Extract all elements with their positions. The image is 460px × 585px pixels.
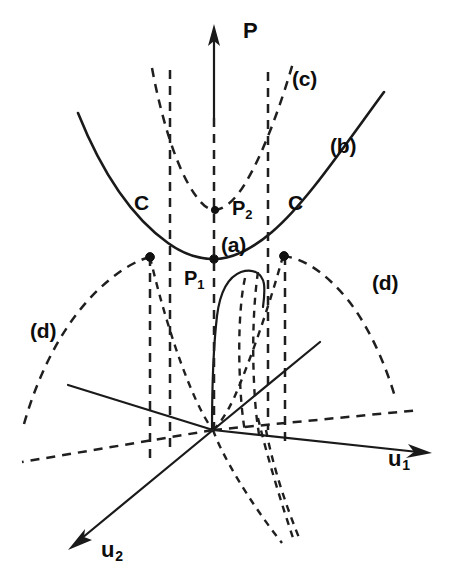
- fold-line-right-below-origin: [266, 430, 300, 540]
- point-p1-label: P1: [184, 268, 204, 288]
- branch-d-left-label: (d): [30, 320, 56, 341]
- branch-d-right-label: (d): [372, 272, 398, 293]
- curve-c-dashed-parabola: [152, 63, 293, 210]
- point-c-right-label: C: [288, 192, 303, 213]
- u1-axis-subscript: 1: [402, 457, 410, 473]
- point-p1-subscript: 1: [197, 277, 204, 292]
- point-c-left-dot: [146, 253, 155, 262]
- plane-guide-dashed-left: [22, 430, 213, 462]
- u1-axis-label: u1: [388, 448, 409, 470]
- p-axis-label: P: [243, 20, 257, 42]
- point-p1-dot: [210, 255, 218, 263]
- point-p2-subscript: 2: [245, 207, 252, 222]
- inner-fold-dashed-right: [253, 272, 259, 434]
- branch-a-label: (a): [221, 234, 246, 255]
- point-c-left-label: C: [134, 192, 149, 213]
- u1-axis-negative-shaft: [68, 385, 213, 430]
- u2-axis-positive-shaft: [82, 430, 213, 538]
- point-c-right-dot: [280, 252, 289, 261]
- fold-line-left-below-origin: [213, 430, 282, 543]
- curve-right-cusp-to-origin-dashed: [213, 256, 283, 430]
- u2-axis-label: u2: [101, 539, 122, 561]
- bifurcation-figure: P (c) (b) C C P2 (a) P1 (d) (d) u1 u2: [0, 0, 460, 585]
- branch-b-label: (b): [330, 135, 356, 156]
- point-p2-label: P2: [232, 198, 252, 218]
- point-p2-dot: [211, 206, 218, 213]
- u2-axis-negative-shaft: [213, 342, 320, 430]
- u2-axis-subscript: 2: [115, 548, 123, 564]
- branch-c-label: (c): [292, 68, 317, 89]
